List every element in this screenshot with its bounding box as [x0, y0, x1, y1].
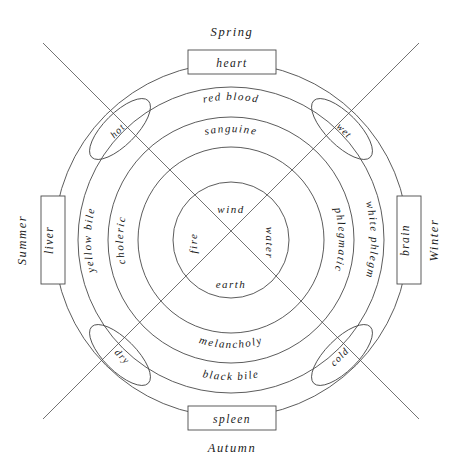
organ-brain-label: brain — [399, 224, 411, 256]
temperament-labels: sanguine melancholy choleric phlegmatic — [113, 122, 349, 350]
quality-cold-label: cold — [328, 345, 351, 368]
quality-wet: wet — [302, 89, 381, 168]
temperament-sanguine: sanguine — [203, 122, 258, 137]
temperament-phlegmatic: phlegmatic — [332, 205, 349, 274]
quality-dry: dry — [80, 315, 159, 394]
element-water: water — [264, 227, 276, 260]
humour-red-blood: red blood — [202, 90, 261, 105]
element-fire: fire — [187, 233, 199, 254]
organ-spleen-box[interactable]: spleen — [188, 406, 276, 430]
humour-white-phlegm: white phlegm — [364, 200, 381, 281]
quality-dry-label: dry — [113, 347, 133, 367]
diagram-canvas: red blood black bile yellow bile white p… — [0, 0, 462, 476]
ring-outer — [54, 63, 408, 417]
four-humours-wheel: red blood black bile yellow bile white p… — [0, 0, 462, 476]
organ-heart-box[interactable]: heart — [188, 50, 276, 74]
temperament-melancholy: melancholy — [198, 333, 264, 350]
element-wind: wind — [217, 203, 244, 215]
quality-cold: cold — [302, 315, 381, 394]
season-winter: Winter — [427, 219, 441, 262]
temperament-choleric: choleric — [113, 214, 128, 266]
element-labels: wind earth fire water — [187, 203, 276, 290]
quality-wet-label: wet — [335, 121, 355, 141]
humour-yellow-bile: yellow bile — [81, 206, 97, 275]
organ-spleen-label: spleen — [213, 413, 251, 426]
organ-liver-label: liver — [43, 226, 55, 254]
season-spring: Spring — [211, 25, 254, 39]
organ-brain-box[interactable]: brain — [397, 196, 421, 284]
season-summer: Summer — [15, 215, 29, 266]
element-earth: earth — [216, 278, 247, 290]
organ-liver-box[interactable]: liver — [41, 196, 65, 284]
season-autumn: Autumn — [207, 441, 257, 455]
humour-black-bile: black bile — [202, 367, 260, 382]
concentric-rings — [54, 63, 408, 417]
organ-heart-label: heart — [216, 57, 247, 69]
ring-temperament — [138, 147, 324, 333]
quality-hot: hot — [80, 89, 159, 168]
ring-humour-inner — [108, 117, 354, 363]
